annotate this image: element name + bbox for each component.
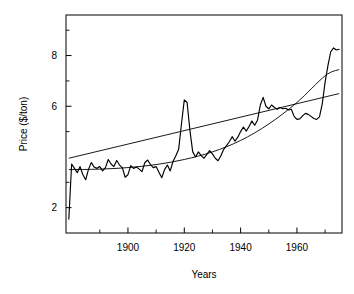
x-axis-title: Years [191,269,216,280]
x-tick-label: 1960 [286,242,309,253]
y-tick-label: 2 [51,202,57,213]
y-tick-label: 8 [51,50,57,61]
y-tick-label: 6 [51,101,57,112]
x-tick-label: 1940 [229,242,252,253]
chart-canvas: 862 1900192019401960 Years Price ($/ton) [0,0,354,294]
x-tick-label: 1920 [173,242,196,253]
x-tick-label: 1900 [117,242,140,253]
y-axis-title: Price ($/ton) [18,97,29,151]
price-time-series-chart: 862 1900192019401960 Years Price ($/ton) [0,0,354,294]
